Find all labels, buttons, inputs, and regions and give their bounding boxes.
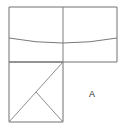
label-a: A <box>89 89 95 99</box>
net-diagram: A <box>0 0 125 137</box>
figure-container: A <box>0 0 125 137</box>
